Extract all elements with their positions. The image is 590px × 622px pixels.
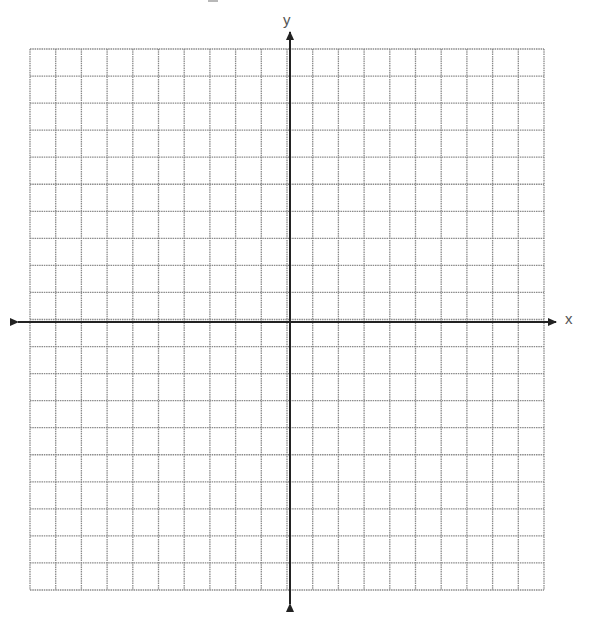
coordinate-plane-figure: y x	[0, 0, 590, 622]
y-axis-label: y	[283, 12, 291, 27]
grid-lines	[30, 49, 544, 590]
coordinate-grid	[0, 0, 590, 622]
x-axis-label: x	[565, 311, 573, 326]
